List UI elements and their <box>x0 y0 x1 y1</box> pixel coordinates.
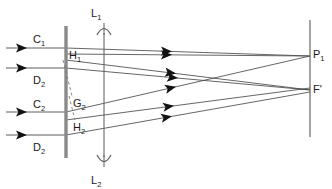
label-Fprime: F' <box>313 83 322 95</box>
label-H1-subscript: 1 <box>77 55 81 64</box>
label-L2: L2 <box>91 174 101 189</box>
traced-ray-group <box>66 47 310 135</box>
label-L2-subscript: 2 <box>97 180 101 189</box>
label-L1: L1 <box>91 7 101 22</box>
label-D2bot-subscript: 2 <box>41 147 45 156</box>
label-C2-subscript: 2 <box>41 104 45 113</box>
label-P1-base: P <box>313 48 320 60</box>
label-G2-subscript: 2 <box>82 103 86 112</box>
label-D2top-subscript: 2 <box>41 80 45 89</box>
optics-diagram-root: C1H1D2C2G2H2D2L1L2P1F' <box>0 0 332 189</box>
label-C1-base: C <box>33 33 41 45</box>
label-D2top-base: D <box>33 74 41 86</box>
label-C2: C2 <box>33 98 45 113</box>
lens-axis-group <box>97 23 111 167</box>
ray-d <box>66 68 310 90</box>
label-C1: C1 <box>33 33 45 48</box>
label-group: C1H1D2C2G2H2D2L1L2P1F' <box>33 7 325 189</box>
label-G2-base: G <box>73 97 82 109</box>
optics-ray-diagram: C1H1D2C2G2H2D2L1L2P1F' <box>0 0 332 189</box>
label-L1-subscript: 1 <box>97 13 101 22</box>
label-C2-base: C <box>33 98 41 110</box>
incoming-ray-group <box>6 44 66 140</box>
label-G2: G2 <box>73 97 86 112</box>
label-H2-subscript: 2 <box>81 127 85 136</box>
label-H1-base: H <box>69 49 77 61</box>
label-D2top: D2 <box>33 74 45 89</box>
label-D2bot: D2 <box>33 141 45 156</box>
ray-g <box>66 92 310 135</box>
label-H2-base: H <box>73 121 81 133</box>
label-P1: P1 <box>313 48 325 63</box>
label-P1-subscript: 1 <box>320 54 324 63</box>
label-Fprime-base: F' <box>313 83 322 95</box>
label-D2bot-base: D <box>33 141 41 153</box>
label-C1-subscript: 1 <box>41 39 45 48</box>
